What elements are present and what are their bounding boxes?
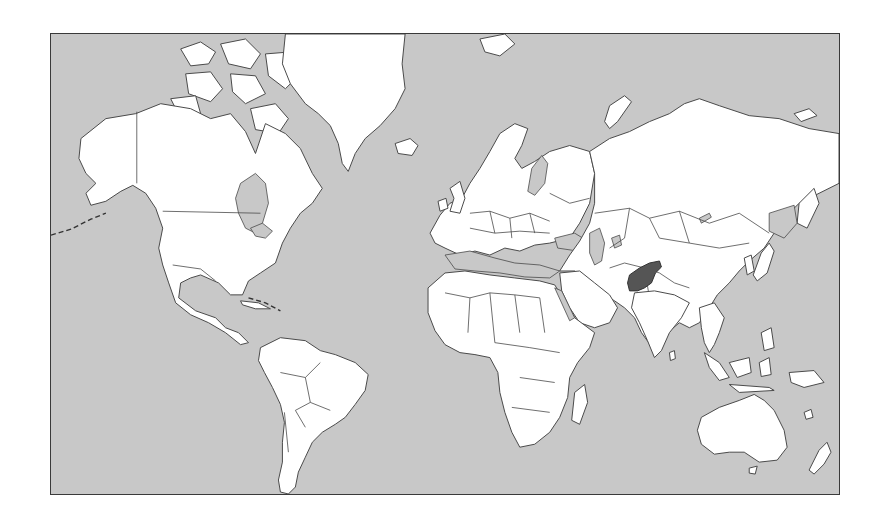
sri-lanka [669, 351, 675, 361]
world-map [50, 33, 840, 495]
tasmania [749, 466, 757, 474]
ireland [438, 198, 448, 211]
world-map-svg [51, 34, 839, 494]
